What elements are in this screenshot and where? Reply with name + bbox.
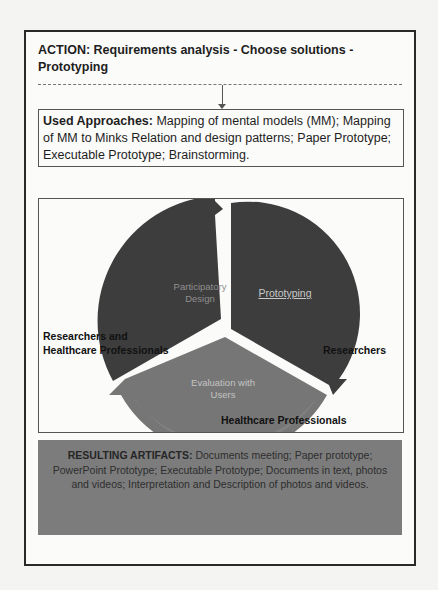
label-prototyping: Prototyping [245,287,325,299]
actor-line: Researchers and [43,329,168,343]
label-participatory-design: Participatory Design [155,281,245,305]
used-approaches-box: Used Approaches: Mapping of mental model… [38,109,404,167]
label-line: Evaluation with [173,377,273,389]
approaches-label: Used Approaches: [43,114,153,128]
actor-line: Healthcare Professionals [43,343,168,357]
diagram-frame: ACTION: Requirements analysis - Choose s… [24,30,416,566]
action-heading: ACTION: Requirements analysis - Choose s… [38,42,400,76]
actor-researchers: Researchers [323,343,386,357]
dashed-divider [38,84,402,85]
resulting-artifacts-box: RESULTING ARTIFACTS: Documents meeting; … [38,440,402,535]
label-line: Participatory [155,281,245,293]
cycle-diagram: Participatory Design Prototyping Evaluat… [38,198,404,433]
artifacts-label: RESULTING ARTIFACTS: [68,449,193,461]
label-line: Design [155,293,245,305]
label-line: Users [173,389,273,401]
label-evaluation-with-users: Evaluation with Users [173,377,273,401]
actor-healthcare-professionals: Healthcare Professionals [221,413,346,427]
actor-researchers-healthcare: Researchers and Healthcare Professionals [43,329,168,357]
